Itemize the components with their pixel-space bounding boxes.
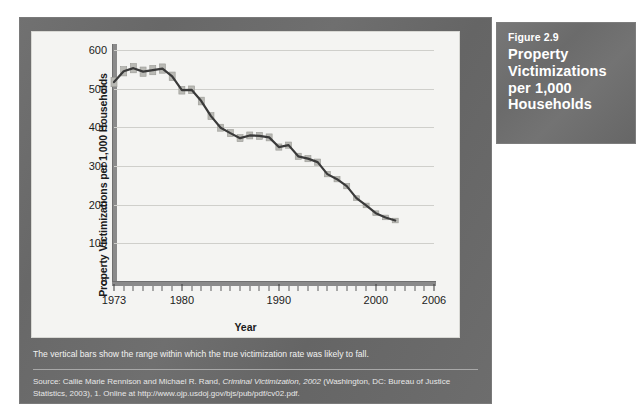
x-tick [162,286,163,291]
x-tick [210,286,211,291]
x-tick [278,284,279,291]
x-tick [288,286,289,291]
chart-caption: The vertical bars show the range within … [33,349,478,361]
x-tick [298,286,299,291]
figure-heading: Property Victimizations per 1,000 Househ… [508,46,626,113]
plot-wrapper: Property Victimizations per 1,000 Househ… [32,32,459,337]
y-tick-label: 300 [89,160,107,172]
x-tick [424,286,425,291]
trend-line [114,68,395,220]
x-tick [114,284,115,291]
x-tick [269,286,270,291]
x-tick [259,286,260,291]
series-plot [114,50,434,282]
x-tick [375,284,376,291]
plot-area: 0100200300400500600 19731980199020002006 [114,50,434,282]
x-tick-label: 2006 [422,294,446,306]
x-tick [356,286,357,291]
x-tick [317,286,318,291]
x-tick [123,286,124,291]
x-tick [249,286,250,291]
x-tick [434,284,435,291]
figure-panel: Property Victimizations per 1,000 Househ… [19,17,492,404]
figure-title-box: Figure 2.9 Property Victimizations per 1… [496,22,636,144]
x-tick [240,286,241,291]
x-tick [201,286,202,291]
x-axis-title: Year [32,321,459,333]
x-tick [143,286,144,291]
x-tick [404,286,405,291]
confidence-band-bars [111,64,398,223]
caption-divider [33,369,478,370]
x-tick [327,286,328,291]
x-tick-label: 1980 [170,294,194,306]
y-tick-label: 400 [89,121,107,133]
x-tick [172,286,173,291]
x-tick [414,286,415,291]
x-tick [191,286,192,291]
y-tick-label: 500 [89,83,107,95]
y-tick-label: 0 [101,276,107,288]
y-tick-label: 100 [89,237,107,249]
figure-number: Figure 2.9 [508,31,626,43]
source-prefix: Source: Callie Marie Rennison and Michae… [33,377,222,386]
source-note: Source: Callie Marie Rennison and Michae… [33,376,472,399]
x-tick [346,286,347,291]
x-tick [385,286,386,291]
x-tick-label: 2000 [364,294,388,306]
x-tick [366,286,367,291]
figure-page: Property Victimizations per 1,000 Househ… [0,0,644,420]
x-tick [133,286,134,291]
source-title: Criminal Victimization, 2002 [222,377,321,386]
x-tick [181,284,182,291]
x-tick-label: 1973 [102,294,126,306]
x-tick [395,286,396,291]
x-tick [220,286,221,291]
x-tick [307,286,308,291]
x-tick [152,286,153,291]
x-tick [337,286,338,291]
x-tick-label: 1990 [267,294,291,306]
y-tick-label: 200 [89,199,107,211]
y-axis-title: Property Victimizations per 1,000 Househ… [97,65,109,305]
chart-card: Property Victimizations per 1,000 Househ… [31,31,460,338]
x-tick [230,286,231,291]
y-tick-label: 600 [89,44,107,56]
